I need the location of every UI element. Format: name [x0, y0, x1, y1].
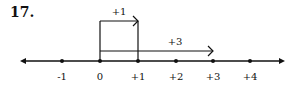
right-arrowhead-icon	[279, 58, 285, 64]
plus-one-arrow: +1	[100, 6, 138, 61]
tick-label: +2	[169, 71, 184, 82]
tick-label: +1	[131, 71, 146, 82]
plus-three-arrow: +3	[100, 36, 213, 56]
left-arrowhead-icon	[20, 58, 26, 64]
number-line-diagram: -1 0 +1 +2 +3 +4 +1 +3	[0, 0, 301, 94]
arrow-label: +3	[168, 36, 183, 47]
tick-label: -1	[57, 71, 67, 82]
tick-label: +4	[243, 71, 258, 82]
arrow-label: +1	[112, 6, 127, 17]
tick-label: 0	[97, 71, 103, 82]
tick-label: +3	[206, 71, 221, 82]
